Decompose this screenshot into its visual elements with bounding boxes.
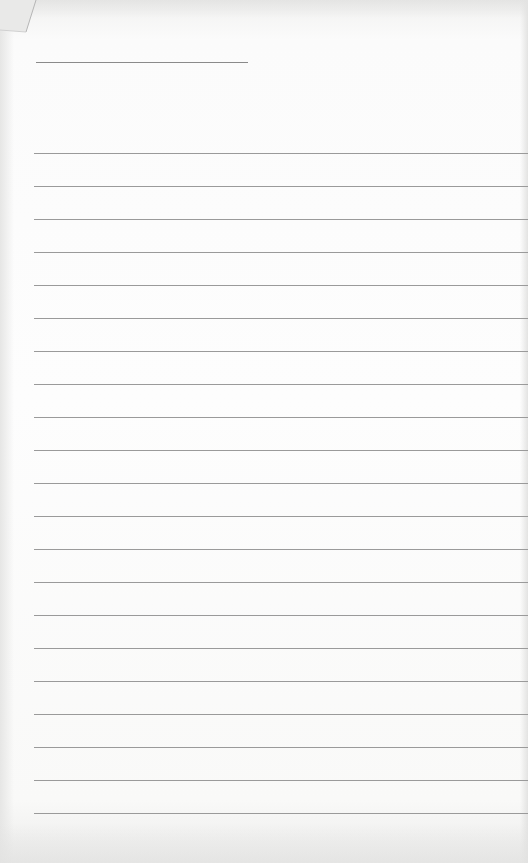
ruled-line	[34, 648, 528, 649]
ruled-line	[34, 780, 528, 781]
ruled-line	[34, 615, 528, 616]
ruled-line	[34, 153, 528, 154]
corner-fold-icon	[0, 0, 40, 40]
ruled-line	[34, 714, 528, 715]
ruled-line	[34, 351, 528, 352]
lined-paper-sheet	[0, 0, 528, 863]
left-edge-shadow	[0, 30, 14, 863]
ruled-line	[34, 417, 528, 418]
ruled-line	[34, 252, 528, 253]
ruled-line	[34, 285, 528, 286]
ruled-line	[34, 384, 528, 385]
ruled-line	[34, 813, 528, 814]
ruled-line	[34, 582, 528, 583]
ruled-line	[34, 681, 528, 682]
ruled-line	[34, 318, 528, 319]
top-edge-shadow	[30, 0, 528, 18]
ruled-line	[34, 450, 528, 451]
ruled-line	[34, 549, 528, 550]
header-line	[36, 62, 248, 63]
ruled-line	[34, 186, 528, 187]
ruled-line	[34, 747, 528, 748]
ruled-line	[34, 516, 528, 517]
ruled-line	[34, 483, 528, 484]
ruled-line	[34, 219, 528, 220]
bottom-edge-shadow	[0, 823, 528, 863]
right-edge-shadow	[520, 0, 528, 863]
